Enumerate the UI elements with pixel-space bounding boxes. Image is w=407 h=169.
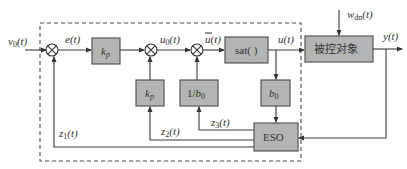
sum-junction-2 bbox=[145, 44, 157, 56]
kp-feedback-block: kp bbox=[136, 80, 164, 106]
b0-block: b0 bbox=[261, 80, 290, 106]
svg-text:sat( ): sat( ) bbox=[235, 44, 258, 57]
ubar-label: u(t) bbox=[205, 33, 221, 46]
inv-b0-block: 1/b0 bbox=[180, 80, 218, 106]
input-label: v0(t) bbox=[8, 35, 28, 49]
z1-label: z1(t) bbox=[58, 127, 78, 141]
disturbance-label: wdn(t) bbox=[347, 8, 373, 22]
control-diagram: v0(t) e(t) kp u0(t) u(t) sat( ) u(t) bbox=[0, 0, 407, 169]
error-label: e(t) bbox=[65, 33, 81, 46]
z2-label: z2(t) bbox=[160, 125, 180, 139]
kp-forward-block: kp bbox=[92, 38, 120, 64]
u-label: u(t) bbox=[278, 33, 294, 46]
output-label: y(t) bbox=[382, 30, 399, 43]
svg-text:ESO: ESO bbox=[263, 131, 284, 143]
sum-junction-3 bbox=[191, 44, 203, 56]
sum-junction-1 bbox=[46, 44, 58, 56]
svg-text:被控对象: 被控对象 bbox=[314, 42, 358, 56]
u0-label: u0(t) bbox=[160, 33, 180, 47]
plant-block: 被控对象 bbox=[305, 36, 373, 62]
z3-label: z3(t) bbox=[210, 116, 230, 130]
sat-block: sat( ) bbox=[225, 37, 268, 63]
eso-block: ESO bbox=[254, 123, 298, 151]
